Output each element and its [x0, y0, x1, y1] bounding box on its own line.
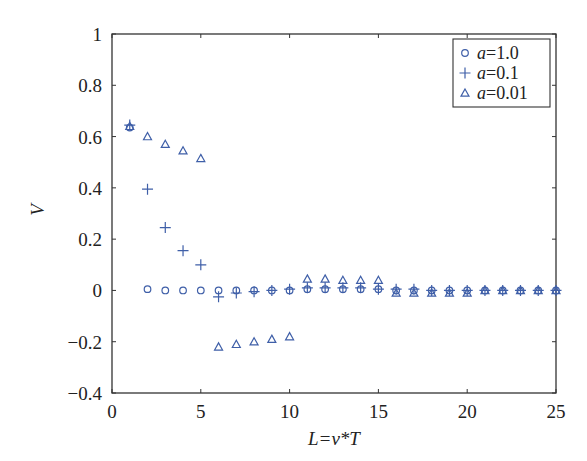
data-point-plus — [444, 285, 455, 296]
y-tick-label: 1 — [93, 24, 103, 45]
y-tick-label: 0 — [93, 280, 103, 301]
data-point-circle — [198, 287, 205, 294]
data-point-plus — [426, 285, 437, 296]
data-point-plus — [160, 222, 171, 233]
data-point-triangle — [197, 154, 205, 161]
data-point-triangle — [215, 343, 223, 350]
data-point-triangle — [161, 140, 169, 147]
legend-label: a=1.0 — [477, 43, 519, 63]
data-point-circle — [144, 286, 151, 293]
y-tick-label: −0.4 — [68, 383, 103, 404]
data-point-plus — [195, 259, 206, 270]
x-tick-label: 0 — [107, 401, 117, 422]
y-tick-label: 0.8 — [78, 75, 102, 96]
x-tick-label: 25 — [547, 401, 566, 422]
data-point-triangle — [179, 147, 187, 154]
series-plus — [124, 120, 561, 303]
y-axis-label: V — [27, 202, 48, 216]
series-circle — [126, 124, 559, 293]
data-point-triangle — [303, 275, 311, 282]
data-point-plus — [178, 245, 189, 256]
data-point-plus — [320, 282, 331, 293]
data-point-plus — [337, 282, 348, 293]
legend: a=1.0a=0.1a=0.01 — [453, 39, 550, 107]
data-point-triangle — [232, 340, 240, 347]
x-tick-label: 10 — [280, 401, 299, 422]
data-point-circle — [162, 287, 169, 294]
data-point-triangle — [374, 276, 382, 283]
scatter-chart: 0510152025 −0.4−0.200.20.40.60.81 L=v*T … — [0, 0, 587, 461]
data-point-plus — [284, 284, 295, 295]
legend-label: a=0.01 — [477, 83, 528, 103]
data-point-triangle — [250, 338, 258, 345]
y-tick-label: −0.2 — [68, 332, 102, 353]
x-tick-label: 5 — [196, 401, 206, 422]
y-tick-label: 0.6 — [78, 127, 102, 148]
data-point-plus — [231, 287, 242, 298]
x-tick-label: 15 — [369, 401, 388, 422]
data-point-triangle — [357, 276, 365, 283]
data-point-plus — [249, 286, 260, 297]
data-point-triangle — [268, 335, 276, 342]
data-point-triangle — [144, 133, 152, 140]
data-point-plus — [266, 285, 277, 296]
data-point-plus — [355, 282, 366, 293]
data-point-triangle — [286, 333, 294, 340]
data-point-plus — [462, 285, 473, 296]
data-point-plus — [142, 184, 153, 195]
series-triangle — [126, 122, 560, 350]
data-point-circle — [180, 287, 187, 294]
y-tick-label: 0.2 — [78, 229, 102, 250]
data-point-plus — [373, 284, 384, 295]
legend-label: a=0.1 — [477, 63, 519, 83]
x-tick-label: 20 — [458, 401, 477, 422]
data-point-triangle — [339, 276, 347, 283]
data-point-plus — [302, 282, 313, 293]
data-point-plus — [213, 291, 224, 302]
x-axis-label: L=v*T — [307, 428, 361, 449]
y-tick-label: 0.4 — [78, 178, 102, 199]
data-point-triangle — [321, 275, 329, 282]
data-points — [124, 120, 561, 351]
